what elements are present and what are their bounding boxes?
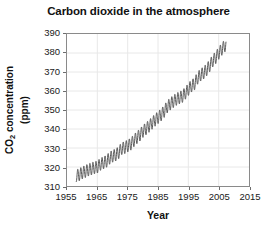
- x-tick-mark: [250, 187, 251, 190]
- y-tick-label: 390: [36, 28, 60, 37]
- y-tick-label: 360: [36, 86, 60, 95]
- x-tick-label: 2015: [234, 192, 266, 202]
- x-axis-title: Year: [66, 209, 250, 221]
- y-tick-mark: [63, 168, 66, 169]
- y-axis-title-subscript: 2: [8, 135, 17, 139]
- plot-area: [66, 33, 250, 187]
- y-tick-mark: [63, 52, 66, 53]
- x-tick-mark: [219, 187, 220, 190]
- x-tick-label: 1955: [50, 192, 82, 202]
- y-tick-mark: [63, 33, 66, 34]
- y-axis-title: CO2 concentration (ppm): [2, 33, 32, 187]
- y-tick-label: 350: [36, 105, 60, 114]
- x-tick-label: 1975: [111, 192, 143, 202]
- x-tick-mark: [127, 187, 128, 190]
- y-tick-mark: [63, 129, 66, 130]
- y-tick-label: 320: [36, 163, 60, 172]
- y-tick-label: 310: [36, 182, 60, 191]
- x-tick-label: 1965: [81, 192, 113, 202]
- chart-figure: Carbon dioxide in the atmosphere CO2 con…: [0, 0, 277, 228]
- y-tick-label: 380: [36, 47, 60, 56]
- y-tick-mark: [63, 91, 66, 92]
- y-axis-title-rest: concentration: [4, 66, 15, 135]
- x-tick-label: 1995: [173, 192, 205, 202]
- y-tick-mark: [63, 149, 66, 150]
- y-axis-title-units: (ppm): [19, 66, 31, 154]
- data-series-keeling-curve: [67, 34, 249, 186]
- x-tick-mark: [189, 187, 190, 190]
- y-tick-label: 370: [36, 67, 60, 76]
- x-tick-mark: [158, 187, 159, 190]
- x-tick-label: 2005: [203, 192, 235, 202]
- x-tick-label: 1985: [142, 192, 174, 202]
- y-tick-mark: [63, 110, 66, 111]
- y-tick-label: 330: [36, 144, 60, 153]
- y-axis-title-co: CO: [4, 139, 15, 154]
- y-tick-mark: [63, 72, 66, 73]
- x-tick-mark: [97, 187, 98, 190]
- chart-title: Carbon dioxide in the atmosphere: [0, 5, 277, 17]
- x-tick-mark: [66, 187, 67, 190]
- y-tick-label: 340: [36, 124, 60, 133]
